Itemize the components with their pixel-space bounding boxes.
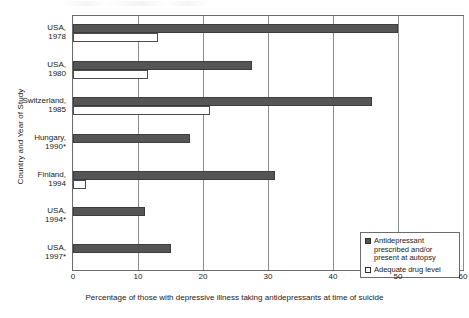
x-tick-label-60: 60 [448, 272, 469, 281]
x-axis-title: Percentage of those with depressive illn… [0, 293, 469, 302]
gridline-60 [463, 16, 464, 270]
category-label-6: USA,1997* [0, 243, 66, 261]
bar-antidepressant-3 [73, 134, 190, 143]
bar-adequate-drug-level-2 [73, 106, 210, 115]
category-label-3: Hungary,1990* [0, 133, 66, 151]
bar-adequate-drug-level-1 [73, 70, 148, 79]
bar-adequate-drug-level-4 [73, 180, 86, 189]
bar-antidepressant-5 [73, 207, 145, 216]
bar-adequate-drug-level-0 [73, 33, 158, 42]
x-tick-label-50: 50 [383, 272, 413, 281]
bar-antidepressant-1 [73, 61, 252, 70]
bar-antidepressant-2 [73, 97, 372, 106]
x-tick-label-30: 30 [253, 272, 283, 281]
category-axis-labels: USA,1978USA,1980Switzerland,1985Hungary,… [0, 15, 69, 271]
plot-area: Antidepressant prescribed and/or present… [72, 15, 464, 271]
x-axis-tick-labels: 0102030405060 [72, 272, 464, 284]
bar-antidepressant-6 [73, 244, 171, 253]
legend-item-antidepressant: Antidepressant prescribed and/or present… [365, 237, 455, 263]
bar-antidepressant-4 [73, 171, 275, 180]
x-tick-label-40: 40 [318, 272, 348, 281]
chart-figure: Country and Year of Study USA,1978USA,19… [0, 0, 469, 318]
category-label-2: Switzerland,1985 [0, 96, 66, 114]
category-label-4: Finland,1994 [0, 170, 66, 188]
dark-square-swatch-icon [365, 238, 371, 244]
x-tick-label-10: 10 [123, 272, 153, 281]
x-tick-label-20: 20 [188, 272, 218, 281]
legend-label-antidepressant: Antidepressant prescribed and/or present… [374, 237, 455, 263]
category-label-1: USA,1980 [0, 60, 66, 78]
category-label-0: USA,1978 [0, 23, 66, 41]
scan-artifact [60, 1, 210, 6]
x-tick-label-0: 0 [58, 272, 88, 281]
category-label-5: USA,1994* [0, 206, 66, 224]
bar-antidepressant-0 [73, 24, 398, 33]
